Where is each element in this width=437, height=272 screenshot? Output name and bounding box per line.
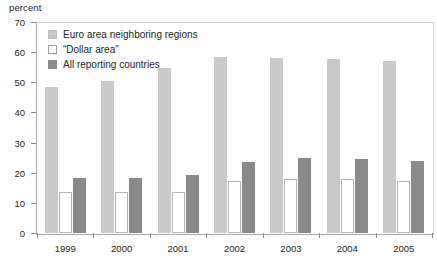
legend-item: Euro area neighboring regions xyxy=(48,27,198,41)
bar-group xyxy=(263,22,319,233)
bar xyxy=(158,68,171,233)
y-axis-tick-label: 70 xyxy=(0,17,30,28)
bar xyxy=(397,181,410,233)
x-axis-tick-label: 2005 xyxy=(393,243,414,254)
y-axis-tick-label: 30 xyxy=(0,137,30,148)
legend-item: All reporting countries xyxy=(48,57,198,71)
y-axis-tick-mark xyxy=(31,203,36,204)
bar xyxy=(59,192,72,233)
bar xyxy=(383,61,396,233)
bar xyxy=(45,87,58,233)
bar xyxy=(270,58,283,233)
bar xyxy=(228,181,241,233)
bar xyxy=(186,175,199,233)
bar xyxy=(355,159,368,233)
legend-swatch-icon xyxy=(48,60,57,69)
x-axis-tick-label: 2002 xyxy=(224,243,245,254)
x-axis-tick-mark xyxy=(150,233,151,238)
x-axis-tick-mark xyxy=(319,233,320,238)
bar xyxy=(172,192,185,233)
y-axis-tick-mark xyxy=(31,82,36,83)
x-axis-tick-mark xyxy=(37,233,38,238)
x-axis-tick-mark xyxy=(206,233,207,238)
x-axis-tick-label: 2000 xyxy=(111,243,132,254)
bar xyxy=(298,158,311,233)
bar xyxy=(129,178,142,233)
x-axis-tick-mark xyxy=(263,233,264,238)
y-axis-tick-label: 40 xyxy=(0,107,30,118)
bar xyxy=(284,179,297,233)
x-axis-tick-mark xyxy=(376,233,377,238)
bar-group xyxy=(206,22,262,233)
bar xyxy=(115,192,128,233)
x-axis-tick-mark xyxy=(93,233,94,238)
bar xyxy=(327,59,340,233)
y-axis-tick-label: 20 xyxy=(0,167,30,178)
chart-legend: Euro area neighboring regions“Dollar are… xyxy=(48,27,198,72)
bar xyxy=(101,81,114,233)
bar-group xyxy=(376,22,432,233)
y-axis-tick-label: 60 xyxy=(0,47,30,58)
legend-swatch-icon xyxy=(48,30,57,39)
bar-chart-figure: percent 010203040506070 1999200020012002… xyxy=(0,0,437,272)
y-axis-tick-mark xyxy=(31,22,36,23)
x-axis-tick-label: 2004 xyxy=(337,243,358,254)
legend-item: “Dollar area” xyxy=(48,42,198,56)
y-axis-tick-mark xyxy=(31,143,36,144)
y-axis-tick-mark xyxy=(31,112,36,113)
bar xyxy=(73,178,86,233)
x-axis-tick-label: 2001 xyxy=(167,243,188,254)
y-axis-unit-label: percent xyxy=(9,2,41,13)
legend-item-label: “Dollar area” xyxy=(63,44,119,55)
x-axis-tick-label: 2003 xyxy=(280,243,301,254)
x-axis-tick-mark xyxy=(432,233,433,238)
y-axis-tick-mark xyxy=(31,52,36,53)
legend-item-label: Euro area neighboring regions xyxy=(63,29,198,40)
y-axis-tick-mark xyxy=(31,173,36,174)
bar xyxy=(242,162,255,233)
legend-swatch-icon xyxy=(48,45,57,54)
y-axis-tick-label: 10 xyxy=(0,197,30,208)
bar-group xyxy=(319,22,375,233)
bar xyxy=(214,57,227,233)
y-axis-tick-mark xyxy=(31,233,36,234)
bar xyxy=(411,161,424,233)
bar xyxy=(341,179,354,233)
legend-item-label: All reporting countries xyxy=(63,59,160,70)
x-axis-tick-label: 1999 xyxy=(55,243,76,254)
y-axis-tick-label: 0 xyxy=(0,228,30,239)
y-axis-tick-label: 50 xyxy=(0,77,30,88)
